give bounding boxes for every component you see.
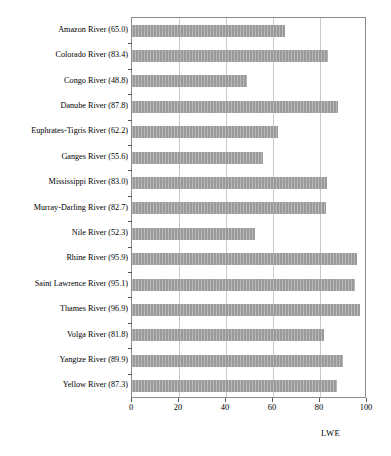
y-axis-label: Saint Lawrence River (95.1)	[0, 280, 128, 288]
bar	[132, 380, 337, 392]
bar	[132, 202, 326, 214]
x-axis-tick	[366, 398, 367, 402]
y-axis-tick	[128, 69, 132, 70]
bar	[132, 126, 278, 138]
x-axis-tick-label: 60	[268, 404, 276, 412]
y-axis-label: Mississippi River (83.0)	[0, 178, 128, 186]
x-axis-tick-label: 0	[129, 404, 133, 412]
y-axis-tick	[128, 145, 132, 146]
y-axis-label: Murray-Darling River (82.7)	[0, 203, 128, 211]
y-axis-label: Euphrates-Tigris River (62.2)	[0, 127, 128, 135]
y-axis-label: Colorado River (83.4)	[0, 51, 128, 59]
x-axis-tick-label: 100	[360, 404, 373, 412]
y-axis-label: Ganges River (55.6)	[0, 153, 128, 161]
y-axis-tick	[128, 196, 132, 197]
x-axis-tick	[225, 398, 226, 402]
y-axis-label: Thames River (96.9)	[0, 305, 128, 313]
y-axis-labels: Amazon River (65.0)Colorado River (83.4)…	[0, 17, 128, 398]
x-axis-tick-label: 40	[221, 404, 229, 412]
y-axis-label: Yangtze River (89.9)	[0, 356, 128, 364]
y-axis-tick	[128, 170, 132, 171]
bars-group	[132, 18, 365, 397]
y-axis-tick	[128, 297, 132, 298]
bar	[132, 329, 324, 341]
bar-slot	[132, 69, 365, 94]
y-axis-label: Danube River (87.8)	[0, 102, 128, 110]
bar-slot	[132, 272, 365, 297]
bar-slot	[132, 247, 365, 272]
bar-slot	[132, 323, 365, 348]
y-axis-label: Amazon River (65.0)	[0, 26, 128, 34]
bar-slot	[132, 297, 365, 322]
x-axis-tick-label: 20	[174, 404, 182, 412]
bar-chart-figure: Amazon River (65.0)Colorado River (83.4)…	[0, 0, 391, 456]
y-axis-tick	[128, 247, 132, 248]
x-axis-ticks: 020406080100	[131, 398, 366, 428]
bar	[132, 177, 327, 189]
bar-slot	[132, 120, 365, 145]
bar	[132, 304, 360, 316]
y-axis-tick	[128, 374, 132, 375]
bar-slot	[132, 196, 365, 221]
y-axis-tick	[128, 348, 132, 349]
bar-slot	[132, 221, 365, 246]
bar	[132, 253, 357, 265]
y-axis-label: Yellow River (87.3)	[0, 381, 128, 389]
bar-slot	[132, 18, 365, 43]
y-axis-tick	[128, 120, 132, 121]
bar-slot	[132, 374, 365, 399]
y-axis-tick	[128, 94, 132, 95]
bar-slot	[132, 170, 365, 195]
y-axis-label: Nile River (52.3)	[0, 229, 128, 237]
y-axis-label: Volga River (81.8)	[0, 330, 128, 338]
bar	[132, 50, 328, 62]
x-axis-tick-label: 80	[315, 404, 323, 412]
x-axis-title-text: LWE	[321, 428, 340, 438]
bar	[132, 355, 343, 367]
y-axis-tick	[128, 323, 132, 324]
bar	[132, 25, 285, 37]
x-axis-tick	[131, 398, 132, 402]
bar	[132, 101, 338, 113]
bar	[132, 152, 263, 164]
x-axis-tick	[272, 398, 273, 402]
plot-area	[131, 17, 366, 398]
bar-slot	[132, 43, 365, 68]
y-axis-label: Congo River (48.8)	[0, 76, 128, 84]
bar-slot	[132, 145, 365, 170]
bar	[132, 75, 247, 87]
bar	[132, 279, 355, 291]
y-axis-tick	[128, 221, 132, 222]
y-axis-tick	[128, 43, 132, 44]
x-axis-title: LWE	[0, 428, 391, 438]
y-axis-label: Rhine River (95.9)	[0, 254, 128, 262]
bar-slot	[132, 94, 365, 119]
bar	[132, 228, 255, 240]
bar-slot	[132, 348, 365, 373]
y-axis-tick	[128, 272, 132, 273]
x-axis-tick	[319, 398, 320, 402]
x-axis-tick	[178, 398, 179, 402]
